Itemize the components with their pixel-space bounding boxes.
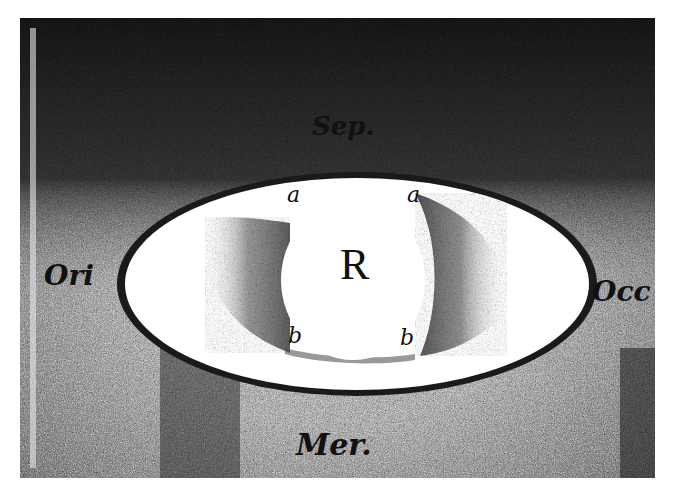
label-point-b-right: b <box>400 327 414 349</box>
label-point-a-right: a <box>407 184 420 206</box>
label-point-a-left: a <box>287 184 300 206</box>
figure-canvas: Sep. Ori Occ Mer. a a b b R <box>0 0 673 500</box>
label-point-b-left: b <box>288 325 302 347</box>
engraving-plate <box>20 18 655 478</box>
label-oriens: Ori <box>44 262 94 290</box>
label-center-r: R <box>340 243 369 287</box>
label-septentrio: Sep. <box>312 113 375 139</box>
saturn-engraving-graphic <box>20 18 655 478</box>
label-meridies: Mer. <box>296 430 372 460</box>
label-occidens: Occ <box>592 278 651 306</box>
